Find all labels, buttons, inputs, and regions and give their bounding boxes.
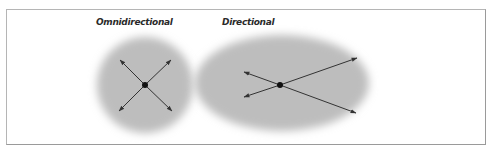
directional-pattern — [195, 35, 369, 131]
omnidirectional-pattern — [97, 37, 193, 133]
radiation-pattern-diagram — [0, 0, 496, 154]
directional-source-dot — [277, 82, 283, 88]
omni-source-dot — [142, 82, 148, 88]
